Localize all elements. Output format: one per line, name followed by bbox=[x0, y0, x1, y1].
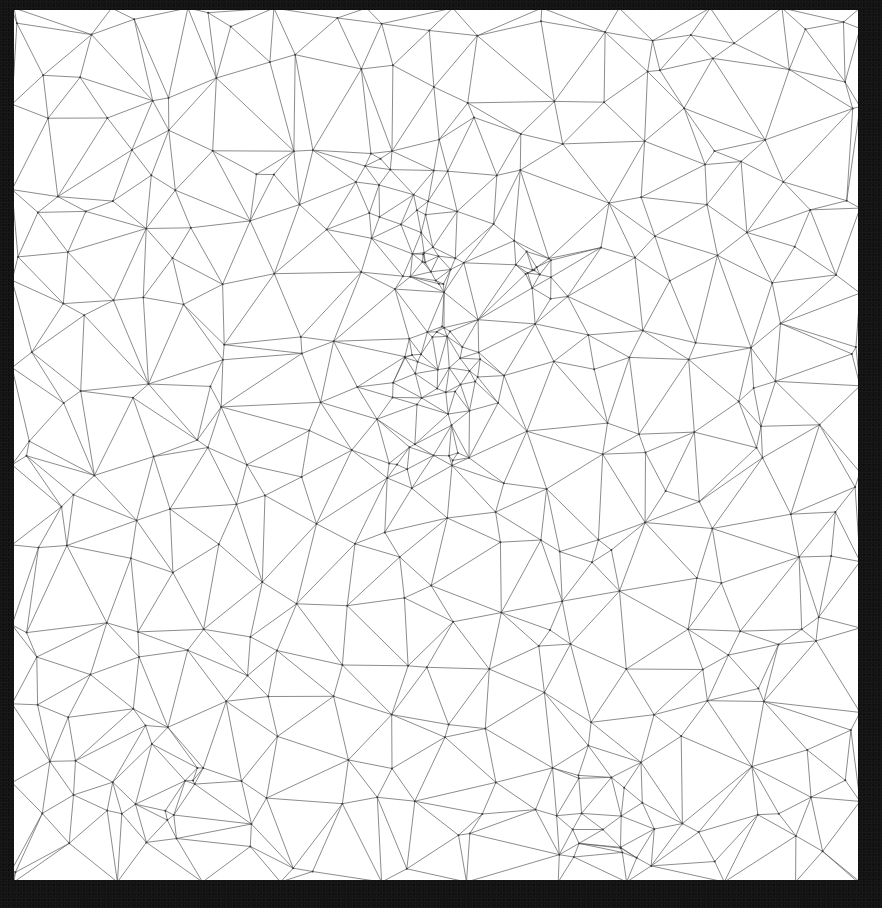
mesh-vertex bbox=[572, 829, 574, 831]
mesh-edge bbox=[173, 258, 184, 304]
mesh-edge bbox=[588, 722, 591, 745]
mesh-edge bbox=[68, 211, 86, 252]
mesh-edge bbox=[447, 336, 460, 358]
mesh-edge bbox=[571, 591, 620, 644]
mesh-edge bbox=[501, 601, 562, 612]
mesh-edge bbox=[810, 210, 836, 275]
mesh-edge bbox=[752, 767, 758, 815]
mesh-edge bbox=[334, 341, 405, 356]
mesh-edge bbox=[146, 726, 152, 745]
mesh-edge bbox=[537, 260, 551, 267]
mesh-edge bbox=[427, 667, 449, 724]
mesh-edge bbox=[136, 804, 166, 811]
mesh-edge bbox=[696, 255, 718, 342]
mesh-edge bbox=[608, 357, 630, 423]
mesh-edge bbox=[14, 545, 39, 548]
mesh-vertex bbox=[249, 220, 251, 222]
mesh-edge bbox=[262, 524, 316, 582]
mesh-edge bbox=[609, 141, 645, 203]
mesh-vertex bbox=[515, 264, 517, 266]
mesh-edge bbox=[107, 101, 152, 118]
mesh-edge bbox=[651, 832, 699, 866]
mesh-edge bbox=[94, 475, 136, 520]
mesh-vertex bbox=[467, 102, 469, 104]
mesh-edge bbox=[811, 797, 823, 851]
mesh-edge bbox=[765, 109, 853, 140]
mesh-edge bbox=[74, 495, 137, 521]
mesh-edge bbox=[327, 213, 370, 230]
mesh-edge bbox=[300, 150, 313, 204]
mesh-vertex bbox=[79, 76, 81, 78]
mesh-edge bbox=[478, 265, 516, 320]
mesh-edge bbox=[393, 358, 405, 383]
mesh-edge bbox=[603, 453, 646, 455]
mesh-vertex bbox=[493, 223, 495, 225]
mesh-vertex bbox=[341, 803, 343, 805]
mesh-edge bbox=[469, 411, 470, 458]
mesh-edge bbox=[131, 558, 173, 572]
mesh-edge bbox=[789, 29, 805, 69]
mesh-vertex bbox=[443, 291, 445, 293]
mesh-vertex bbox=[445, 391, 447, 393]
mesh-edge bbox=[64, 403, 95, 475]
mesh-edge bbox=[250, 847, 280, 881]
mesh-edge bbox=[453, 10, 478, 36]
mesh-edge bbox=[645, 141, 705, 164]
mesh-edge bbox=[539, 646, 545, 692]
mesh-edge bbox=[469, 458, 504, 483]
mesh-edge bbox=[404, 598, 408, 666]
mesh-edge bbox=[197, 440, 208, 447]
mesh-edge bbox=[146, 190, 175, 228]
mesh-edge bbox=[64, 391, 81, 403]
mesh-vertex bbox=[67, 251, 69, 253]
mesh-edge bbox=[42, 813, 69, 843]
mesh-edge bbox=[14, 465, 62, 507]
mesh-vertex bbox=[500, 612, 502, 614]
mesh-vertex bbox=[299, 204, 301, 206]
mesh-vertex bbox=[166, 819, 168, 821]
mesh-vertex bbox=[145, 725, 147, 727]
mesh-edge bbox=[532, 288, 535, 324]
mesh-vertex bbox=[756, 447, 758, 449]
mesh-edge bbox=[18, 252, 68, 257]
mesh-edge bbox=[705, 165, 707, 205]
mesh-edge bbox=[447, 512, 495, 518]
mesh-edge bbox=[823, 801, 858, 851]
mesh-edge bbox=[713, 43, 734, 58]
mesh-vertex bbox=[391, 714, 393, 716]
mesh-edge bbox=[641, 141, 644, 197]
mesh-vertex bbox=[591, 561, 593, 563]
mesh-edge bbox=[582, 777, 612, 813]
mesh-vertex bbox=[762, 457, 764, 459]
mesh-edge bbox=[174, 815, 177, 839]
mesh-edge bbox=[740, 631, 778, 644]
mesh-edge bbox=[557, 813, 582, 815]
mesh-vertex bbox=[600, 247, 602, 249]
mesh-edge bbox=[747, 210, 810, 233]
mesh-edge bbox=[50, 761, 74, 795]
mesh-edge bbox=[541, 489, 547, 540]
mesh-edge bbox=[845, 28, 858, 82]
mesh-edge bbox=[835, 512, 858, 562]
mesh-edge bbox=[268, 697, 277, 737]
mesh-edge bbox=[337, 18, 381, 24]
mesh-edge bbox=[611, 550, 619, 591]
mesh-vertex bbox=[647, 71, 649, 73]
mesh-vertex bbox=[414, 800, 416, 802]
mesh-vertex bbox=[168, 97, 170, 99]
mesh-vertex bbox=[448, 367, 450, 369]
mesh-edge bbox=[494, 175, 497, 224]
mesh-vertex bbox=[438, 255, 440, 257]
mesh-vertex bbox=[168, 129, 170, 131]
mesh-edge bbox=[688, 629, 740, 631]
mesh-edge bbox=[395, 289, 427, 332]
mesh-vertex bbox=[650, 865, 652, 867]
mesh-edge bbox=[334, 339, 410, 342]
mesh-edge bbox=[609, 203, 655, 236]
mesh-vertex bbox=[559, 551, 561, 553]
mesh-edge bbox=[588, 746, 611, 778]
mesh-edge bbox=[539, 630, 550, 646]
mesh-edge bbox=[15, 813, 42, 872]
mesh-edge bbox=[448, 171, 457, 211]
mesh-edge bbox=[313, 150, 356, 182]
